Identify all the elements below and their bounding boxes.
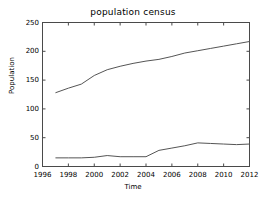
x-tick-label: 2000 — [85, 171, 103, 179]
x-tick-label: 1996 — [34, 171, 52, 179]
x-tick-label: 2010 — [215, 171, 233, 179]
y-tick-label: 150 — [18, 76, 39, 84]
y-tick-label: 100 — [18, 105, 39, 113]
plot-frame — [43, 23, 250, 167]
x-tick-label: 2008 — [189, 171, 207, 179]
x-tick-label: 1998 — [59, 171, 77, 179]
tick-marks — [43, 23, 250, 167]
y-tick-label: 50 — [18, 134, 39, 142]
x-tick-label: 2006 — [163, 171, 181, 179]
data-line-upper — [55, 42, 249, 93]
data-line-lower — [55, 143, 249, 158]
x-tick-label: 2002 — [111, 171, 129, 179]
plot-canvas — [0, 0, 266, 198]
y-tick-label: 200 — [18, 47, 39, 55]
y-tick-label: 250 — [18, 19, 39, 27]
x-tick-label: 2004 — [137, 171, 155, 179]
y-tick-label: 0 — [18, 163, 39, 171]
x-tick-label: 2012 — [241, 171, 259, 179]
chart-figure: population census Population Time 199619… — [0, 0, 266, 198]
